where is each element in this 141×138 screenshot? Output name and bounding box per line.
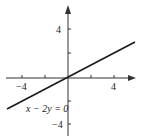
plot-line-x-minus-2y-equals-0	[7, 42, 135, 109]
equation-label: x − 2y = 0	[25, 103, 68, 114]
y-tick-label-4: 4	[56, 24, 61, 35]
y-tick-label-neg4: −4	[52, 119, 63, 130]
x-tick-label-neg4: −4	[16, 81, 27, 92]
x-axis-arrow-icon	[128, 75, 136, 81]
x-tick-label-4: 4	[111, 81, 116, 92]
coordinate-plot: −4 4 4 −4 x − 2y = 0	[0, 0, 141, 138]
y-axis-arrow-icon	[65, 5, 71, 14]
